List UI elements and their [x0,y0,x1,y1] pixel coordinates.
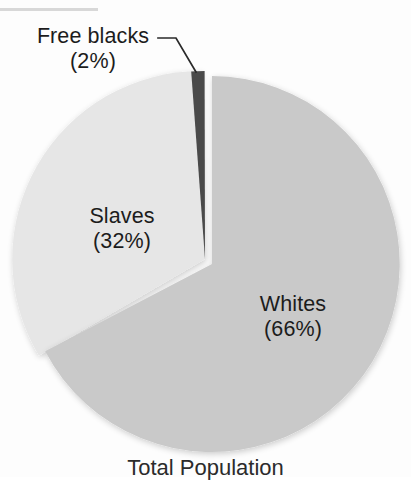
pie-label-slaves-name: Slaves [62,204,182,229]
pie-label-free-blacks: Free blacks (2%) [18,24,168,73]
pie-label-whites-percent: (66%) [228,317,358,342]
pie-label-whites: Whites (66%) [228,292,358,341]
pie-label-whites-name: Whites [228,292,358,317]
pie-label-slaves-percent: (32%) [62,229,182,254]
pie-label-free-blacks-percent: (2%) [18,49,168,74]
pie-label-slaves: Slaves (32%) [62,204,182,253]
chart-caption: Total Population [0,455,411,481]
pie-label-free-blacks-name: Free blacks [18,24,168,49]
